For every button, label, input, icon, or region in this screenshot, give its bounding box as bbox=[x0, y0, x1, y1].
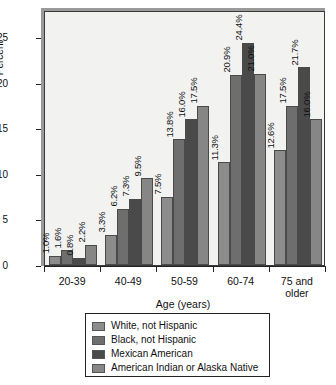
y-tick-mark bbox=[36, 38, 41, 39]
x-tick-mark bbox=[213, 266, 214, 272]
bar-group: 12.6%17.5%21.7%16.0% bbox=[270, 12, 326, 265]
y-tick-mark bbox=[36, 175, 41, 176]
bar[interactable] bbox=[129, 199, 141, 265]
bar-slot: 16.0% bbox=[310, 12, 322, 265]
bar-value-label: 20.9% bbox=[221, 47, 231, 73]
bar[interactable] bbox=[161, 197, 173, 265]
x-axis-line bbox=[44, 266, 325, 267]
bar[interactable] bbox=[173, 139, 185, 265]
bar-value-label: 3.3% bbox=[97, 212, 107, 233]
bar-value-label: 2.2% bbox=[77, 222, 87, 243]
bar-value-label: 7.3% bbox=[121, 176, 131, 197]
bar-value-label: 6.2% bbox=[109, 186, 119, 207]
legend-label: Mexican American bbox=[111, 349, 193, 359]
legend-label: White, not Hispanic bbox=[111, 321, 197, 331]
bar[interactable] bbox=[254, 74, 266, 265]
bar-slot: 16.0% bbox=[185, 12, 197, 265]
bar-group: 3.3%6.2%7.3%9.5% bbox=[101, 12, 157, 265]
bar-slot: 9.5% bbox=[141, 12, 153, 265]
bar-value-label: 24.4% bbox=[233, 15, 243, 41]
legend-item[interactable]: White, not Hispanic bbox=[92, 319, 269, 333]
bar-group: 11.3%20.9%24.4%21.0% bbox=[214, 12, 270, 265]
y-tick-label: 0 bbox=[0, 261, 8, 271]
plot-frame: 1.0%1.6%0.8%2.2%3.3%6.2%7.3%9.5%7.5%13.8… bbox=[41, 8, 325, 266]
bar-value-label: 21.7% bbox=[289, 39, 299, 65]
y-axis-title: Percent bbox=[0, 0, 5, 118]
bar[interactable] bbox=[197, 106, 209, 265]
bar-value-label: 21.0% bbox=[245, 46, 255, 72]
bar-value-label: 17.5% bbox=[189, 78, 199, 104]
y-tick-label: 5 bbox=[0, 215, 8, 225]
bar-value-label: 11.3% bbox=[209, 135, 219, 160]
y-tick-mark bbox=[36, 84, 41, 85]
y-tick-label: 15 bbox=[0, 124, 8, 134]
bar-slot: 6.2% bbox=[117, 12, 129, 265]
bar-slot: 3.3% bbox=[105, 12, 117, 265]
bar-slot: 13.8% bbox=[173, 12, 185, 265]
bar-value-label: 1.0% bbox=[41, 233, 51, 254]
bar-value-label: 9.5% bbox=[133, 156, 143, 177]
x-tick-mark bbox=[100, 266, 101, 272]
legend: White, not HispanicBlack, not HispanicMe… bbox=[85, 313, 270, 377]
bar[interactable] bbox=[73, 258, 85, 265]
bar-group: 1.0%1.6%0.8%2.2% bbox=[45, 12, 101, 265]
bar-value-label: 0.8% bbox=[65, 235, 75, 256]
y-tick-mark bbox=[36, 129, 41, 130]
x-tick-mark bbox=[44, 266, 45, 272]
bar-value-label: 12.6% bbox=[265, 122, 275, 148]
bar-slot: 7.3% bbox=[129, 12, 141, 265]
bar-slot: 12.6% bbox=[274, 12, 286, 265]
bar[interactable] bbox=[242, 43, 254, 265]
x-tick-mark bbox=[325, 266, 326, 272]
x-tick-mark bbox=[156, 266, 157, 272]
y-tick-mark bbox=[36, 220, 41, 221]
bar[interactable] bbox=[218, 162, 230, 265]
bar[interactable] bbox=[310, 119, 322, 265]
bar-chart: 1.0%1.6%0.8%2.2%3.3%6.2%7.3%9.5%7.5%13.8… bbox=[0, 0, 336, 385]
x-axis-title: Age (years) bbox=[41, 298, 325, 310]
bar-value-label: 1.6% bbox=[53, 228, 63, 249]
bar-value-label: 17.5% bbox=[277, 78, 287, 104]
bar-slot: 20.9% bbox=[230, 12, 242, 265]
bar[interactable] bbox=[286, 106, 298, 265]
legend-swatch bbox=[92, 336, 105, 345]
bar[interactable] bbox=[105, 235, 117, 265]
legend-item[interactable]: Mexican American bbox=[92, 347, 269, 361]
x-tick-mark bbox=[269, 266, 270, 272]
legend-label: American Indian or Alaska Native bbox=[111, 363, 258, 373]
legend-swatch bbox=[92, 350, 105, 359]
y-tick-mark bbox=[36, 266, 41, 267]
bar[interactable] bbox=[230, 75, 242, 265]
y-tick-label: 10 bbox=[0, 170, 8, 180]
bar-slot: 21.7% bbox=[298, 12, 310, 265]
bar-value-label: 16.0% bbox=[301, 91, 311, 117]
bar-value-label: 7.5% bbox=[153, 174, 163, 195]
legend-label: Black, not Hispanic bbox=[111, 335, 196, 345]
bar-slot: 1.6% bbox=[61, 12, 73, 265]
legend-swatch bbox=[92, 364, 105, 373]
bar[interactable] bbox=[85, 245, 97, 265]
bar[interactable] bbox=[185, 119, 197, 265]
bar-value-label: 13.8% bbox=[165, 111, 175, 137]
bar-value-label: 16.0% bbox=[177, 91, 187, 117]
plot-area: 1.0%1.6%0.8%2.2%3.3%6.2%7.3%9.5%7.5%13.8… bbox=[44, 11, 325, 266]
legend-item[interactable]: American Indian or Alaska Native bbox=[92, 361, 269, 375]
bar[interactable] bbox=[49, 256, 61, 265]
x-tick-label: 75 andolder bbox=[260, 275, 334, 299]
bar-slot: 7.5% bbox=[161, 12, 173, 265]
legend-item[interactable]: Black, not Hispanic bbox=[92, 333, 269, 347]
legend-swatch bbox=[92, 322, 105, 331]
bar-group: 7.5%13.8%16.0%17.5% bbox=[157, 12, 213, 265]
bar[interactable] bbox=[274, 150, 286, 265]
bar[interactable] bbox=[117, 209, 129, 265]
